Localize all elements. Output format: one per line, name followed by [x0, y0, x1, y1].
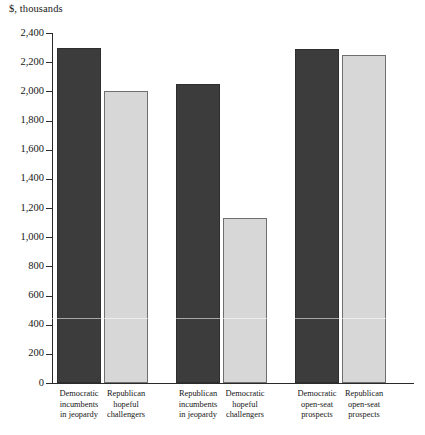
y-tick-label: 1,800	[2, 115, 44, 126]
y-tick-label: 2,200	[2, 57, 44, 68]
category-label-line: Republican	[334, 389, 394, 400]
y-tick-label-wrap: 1,800	[0, 115, 44, 126]
y-tick-mark	[46, 208, 53, 209]
y-tick-label-wrap: 1,400	[0, 173, 44, 184]
y-tick-mark	[46, 325, 53, 326]
bar-4	[223, 218, 267, 383]
y-tick-label-wrap: 400	[0, 319, 44, 330]
category-label-line: hopeful	[96, 400, 156, 411]
y-tick-mark	[46, 91, 53, 92]
y-tick-label-wrap: 0	[0, 378, 44, 389]
category-label-4: Democratichopefulchallengers	[215, 389, 275, 421]
y-tick-label: 2,000	[2, 86, 44, 97]
y-tick-label: 1,200	[2, 203, 44, 214]
y-tick-label: 1,000	[2, 232, 44, 243]
y-tick-label: 400	[2, 319, 44, 330]
y-tick-label-wrap: 1,200	[0, 203, 44, 214]
y-tick-label: 200	[2, 348, 44, 359]
bar-5	[295, 49, 339, 383]
y-tick-mark	[46, 150, 53, 151]
y-tick-mark	[46, 354, 53, 355]
y-tick-label: 1,600	[2, 144, 44, 155]
y-tick-label-wrap: 200	[0, 348, 44, 359]
y-tick-label-wrap: 1,600	[0, 144, 44, 155]
y-tick-label-wrap: 800	[0, 261, 44, 272]
category-label-2: Republicanhopefulchallengers	[96, 389, 156, 421]
y-tick-label: 2,400	[2, 28, 44, 39]
y-tick-label: 800	[2, 261, 44, 272]
category-label-line: Democratic	[215, 389, 275, 400]
category-label-line: prospects	[334, 410, 394, 421]
bar-chart: $, thousands 2,4002,2002,0001,8001,6001,…	[0, 0, 425, 435]
category-label-line: Republican	[96, 389, 156, 400]
y-tick-mark	[46, 383, 53, 384]
category-label-6: Republicanopen-seatprospects	[334, 389, 394, 421]
plot-area: 2,4002,2002,0001,8001,6001,4001,2001,000…	[0, 0, 425, 435]
y-tick-mark	[46, 121, 53, 122]
y-tick-mark	[46, 296, 53, 297]
bar-3	[176, 84, 220, 383]
y-tick-mark	[46, 62, 53, 63]
category-label-line: challengers	[215, 410, 275, 421]
y-tick-mark	[46, 266, 53, 267]
category-label-line: hopeful	[215, 400, 275, 411]
y-tick-label-wrap: 2,200	[0, 57, 44, 68]
y-tick-mark	[46, 33, 53, 34]
y-tick-mark	[46, 237, 53, 238]
y-tick-label: 1,400	[2, 173, 44, 184]
bar-6	[342, 55, 386, 383]
y-tick-label-wrap: 1,000	[0, 232, 44, 243]
category-label-line: challengers	[96, 410, 156, 421]
category-label-line: open-seat	[334, 400, 394, 411]
bar-2	[104, 91, 148, 383]
y-tick-label-wrap: 600	[0, 290, 44, 301]
y-tick-label-wrap: 2,400	[0, 28, 44, 39]
y-tick-label-wrap: 2,000	[0, 86, 44, 97]
y-tick-label: 0	[2, 378, 44, 389]
y-tick-label: 600	[2, 290, 44, 301]
x-axis-line	[52, 383, 414, 384]
y-tick-mark	[46, 179, 53, 180]
bar-1	[57, 48, 101, 383]
